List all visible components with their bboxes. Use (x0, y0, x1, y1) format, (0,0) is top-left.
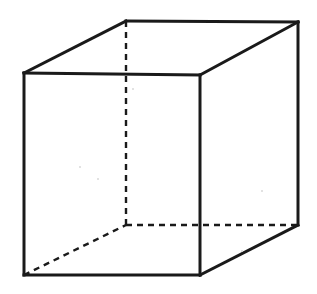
cube-wireframe-svg (0, 0, 317, 294)
cube-figure (0, 0, 317, 294)
figure-background (0, 0, 317, 294)
visible-edge-back-top (126, 21, 298, 22)
visible-edge-front-top (24, 73, 200, 75)
